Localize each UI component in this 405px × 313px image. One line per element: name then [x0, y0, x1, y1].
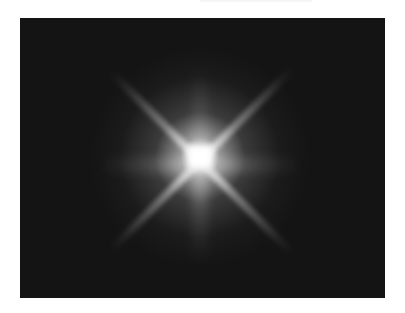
star-image [20, 18, 385, 298]
horizontal-ray-right [200, 157, 300, 173]
star-core [188, 146, 212, 168]
top-edge-mark [200, 0, 312, 3]
horizontal-ray-left [100, 157, 200, 173]
vertical-ray-down [192, 165, 208, 260]
